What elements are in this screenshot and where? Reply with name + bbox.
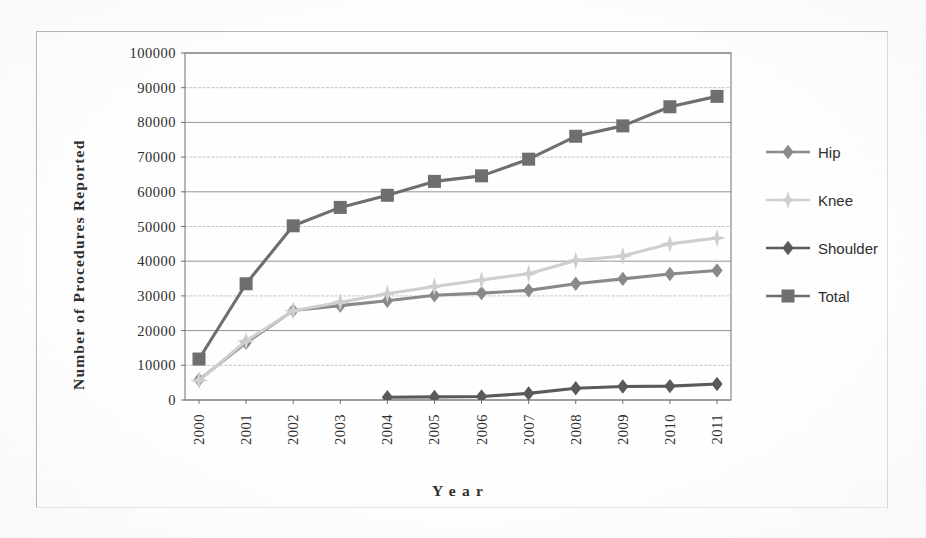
x-tick-label: 2000 xyxy=(191,414,207,445)
x-tick-label: 2011 xyxy=(709,414,725,444)
legend-label: Knee xyxy=(818,192,853,209)
data-point-marker xyxy=(428,175,441,188)
legend-item-total[interactable]: Total xyxy=(766,288,850,305)
y-tick-label: 0 xyxy=(168,392,176,408)
y-tick-label: 90000 xyxy=(137,80,176,96)
chart-legend: HipKneeShoulderTotal xyxy=(766,144,878,305)
y-tick-marks xyxy=(181,53,185,400)
data-point-marker xyxy=(522,153,535,166)
x-tick-label: 2008 xyxy=(568,414,584,445)
x-tick-label: 2006 xyxy=(474,414,490,445)
data-point-marker xyxy=(240,277,253,290)
data-point-marker xyxy=(711,90,724,103)
x-tick-label: 2002 xyxy=(285,414,301,445)
data-point-marker xyxy=(287,219,300,232)
y-axis-title: Number of Procedures Reported xyxy=(70,140,87,390)
x-tick-label: 2001 xyxy=(238,414,254,445)
data-point-marker xyxy=(782,290,795,303)
y-tick-label: 30000 xyxy=(137,288,176,304)
data-point-marker xyxy=(334,201,347,214)
x-tick-label: 2004 xyxy=(379,414,395,445)
data-point-marker xyxy=(381,189,394,202)
x-tick-label: 2005 xyxy=(426,414,442,445)
legend-item-hip[interactable]: Hip xyxy=(766,144,841,161)
y-tick-label: 80000 xyxy=(137,114,176,130)
plot-wrapper: 1000009000080000700006000050000400003000… xyxy=(0,0,926,538)
data-point-marker xyxy=(663,100,676,113)
legend-label: Shoulder xyxy=(818,240,878,257)
y-tick-label: 10000 xyxy=(137,357,176,373)
y-tick-label: 20000 xyxy=(137,323,176,339)
line-chart-svg: 1000009000080000700006000050000400003000… xyxy=(0,0,926,538)
legend-label: Hip xyxy=(818,144,841,161)
x-tick-label: 2010 xyxy=(662,414,678,445)
y-tick-labels: 1000009000080000700006000050000400003000… xyxy=(130,45,177,408)
y-tick-label: 100000 xyxy=(130,45,177,61)
data-point-marker xyxy=(782,241,793,255)
x-tick-labels: 2000200120022003200420052006200720082009… xyxy=(191,414,725,445)
x-tick-label: 2003 xyxy=(332,414,348,445)
x-axis-title: Y e a r xyxy=(432,482,484,499)
y-tick-label: 70000 xyxy=(137,149,176,165)
legend-item-knee[interactable]: Knee xyxy=(766,191,853,209)
data-point-marker xyxy=(569,130,582,143)
legend-item-shoulder[interactable]: Shoulder xyxy=(766,240,878,257)
x-axis-title-group: Y e a r xyxy=(432,482,484,499)
y-tick-label: 60000 xyxy=(137,184,176,200)
y-tick-label: 50000 xyxy=(137,219,176,235)
data-point-marker xyxy=(782,145,793,159)
y-axis-title-group: Number of Procedures Reported xyxy=(70,140,87,390)
data-point-marker xyxy=(193,353,206,366)
chart-figure: 1000009000080000700006000050000400003000… xyxy=(0,0,926,538)
y-tick-label: 40000 xyxy=(137,253,176,269)
data-point-marker xyxy=(779,191,797,209)
data-point-marker xyxy=(616,119,629,132)
x-tick-label: 2007 xyxy=(521,414,537,445)
x-tick-marks xyxy=(199,400,717,404)
legend-label: Total xyxy=(818,288,850,305)
x-tick-label: 2009 xyxy=(615,414,631,445)
data-point-marker xyxy=(475,169,488,182)
